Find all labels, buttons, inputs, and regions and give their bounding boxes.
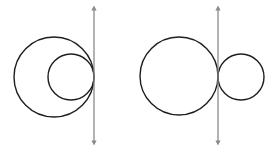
diagram-canvas bbox=[0, 0, 276, 153]
figure-externally-tangent bbox=[140, 8, 264, 143]
large-circle bbox=[14, 37, 94, 117]
small-circle bbox=[48, 54, 94, 100]
tangent-circles-diagram bbox=[0, 0, 276, 153]
large-circle bbox=[140, 37, 218, 115]
small-circle bbox=[218, 54, 264, 100]
figure-internally-tangent bbox=[14, 8, 94, 143]
